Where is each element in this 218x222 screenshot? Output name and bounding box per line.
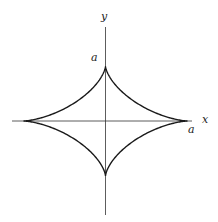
x-axis-label: x: [202, 114, 208, 125]
y-intercept-label: a: [91, 52, 98, 63]
astroid-diagram: y a x a: [0, 0, 218, 222]
diagram-graphic: [0, 0, 218, 222]
x-intercept-label: a: [188, 124, 195, 135]
y-axis-label: y: [101, 11, 107, 22]
